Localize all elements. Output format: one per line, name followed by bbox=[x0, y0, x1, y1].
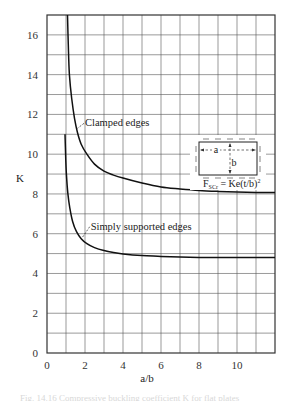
annotations: Clamped edges Simply supported edges bbox=[77, 117, 191, 237]
x-tick-label: 10 bbox=[232, 359, 244, 371]
simply-supported-edges-arrow bbox=[82, 227, 90, 238]
y-tick-label: 16 bbox=[27, 29, 39, 41]
y-tick-label: 6 bbox=[33, 228, 39, 240]
x-tick-label: 6 bbox=[158, 359, 164, 371]
clamped-edges-label: Clamped edges bbox=[85, 117, 149, 128]
x-tick-label: 4 bbox=[120, 359, 126, 371]
x-axis-label: a/b bbox=[140, 372, 154, 384]
formula-rest: = Ke(t/b) bbox=[218, 178, 258, 190]
y-axis-label: K bbox=[16, 172, 24, 184]
y-tick-label: 14 bbox=[27, 69, 39, 81]
y-tick-label: 2 bbox=[33, 307, 39, 319]
simply-supported-edges-label: Simply supported edges bbox=[91, 221, 192, 232]
x-tick-label: 8 bbox=[196, 359, 202, 371]
figure-caption: Fig. 14.16 Compressive buckling coeffici… bbox=[20, 392, 280, 401]
y-tick-label: 10 bbox=[27, 148, 39, 160]
x-tick-label: 2 bbox=[82, 359, 88, 371]
x-tick-label: 0 bbox=[44, 359, 50, 371]
plate-inset-diagram: a b FSCr = Ke(t/b)2 bbox=[190, 135, 266, 190]
clamped-edges-arrow bbox=[77, 123, 84, 128]
y-tick-label: 8 bbox=[33, 188, 39, 200]
tick-labels: 02468100246810121416 bbox=[27, 29, 243, 371]
y-tick-label: 12 bbox=[27, 108, 38, 120]
y-tick-label: 0 bbox=[33, 347, 39, 359]
buckling-coefficient-chart: 02468100246810121416 K a/b Clamped edges… bbox=[0, 0, 292, 401]
formula-superscript: 2 bbox=[257, 178, 260, 184]
dimension-a-label: a bbox=[214, 144, 219, 155]
dimension-b-label: b bbox=[232, 157, 237, 168]
y-tick-label: 4 bbox=[33, 267, 39, 279]
formula-subscript: SCr bbox=[209, 184, 218, 190]
